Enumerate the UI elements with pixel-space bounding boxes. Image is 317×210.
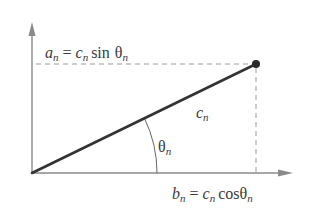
- vector-c-n: [32, 64, 256, 173]
- vector-endpoint-dot: [252, 60, 260, 68]
- x-axis-arrowhead-icon: [278, 170, 293, 177]
- label-b-n-equation: bn=cncosθn: [172, 185, 253, 204]
- y-axis-arrowhead-icon: [29, 22, 36, 36]
- x-axis: [31, 170, 293, 177]
- label-a-n-equation: an=cnsinθn: [45, 44, 128, 63]
- vector-decomposition-diagram: an=cnsinθn cn θn bn=cncosθn: [0, 0, 317, 210]
- label-c-n: cn: [196, 104, 209, 123]
- theta-angle-arc: [145, 119, 157, 173]
- y-axis: [29, 22, 36, 174]
- label-theta-n: θn: [158, 138, 172, 157]
